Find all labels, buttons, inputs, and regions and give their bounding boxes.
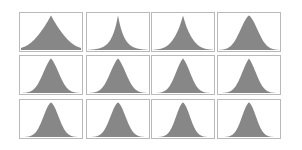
density-area <box>21 58 81 93</box>
density-panel-r1-c2 <box>86 12 150 52</box>
density-area <box>88 102 148 137</box>
density-panel-r1-c4 <box>217 12 281 52</box>
density-curve <box>218 56 280 94</box>
density-area <box>219 15 279 50</box>
density-panel-r3-c1 <box>19 99 83 139</box>
density-curve <box>218 100 280 138</box>
density-curve <box>218 13 280 51</box>
density-panel-r2-c2 <box>86 55 150 95</box>
density-panel-r3-c4 <box>217 99 281 139</box>
density-curve <box>152 56 214 94</box>
density-area <box>153 15 213 50</box>
density-panel-r3-c2 <box>86 99 150 139</box>
density-area <box>219 58 279 93</box>
density-curve <box>20 56 82 94</box>
density-area <box>153 58 213 93</box>
density-curve <box>87 56 149 94</box>
density-area <box>88 15 148 50</box>
density-panel-r2-c1 <box>19 55 83 95</box>
density-panel-r3-c3 <box>151 99 215 139</box>
density-curve <box>20 13 82 51</box>
density-area <box>153 102 213 137</box>
density-curve <box>20 100 82 138</box>
density-area <box>88 58 148 93</box>
density-curve <box>87 100 149 138</box>
density-panel-r1-c3 <box>151 12 215 52</box>
density-curve <box>87 13 149 51</box>
density-area <box>21 15 81 50</box>
density-panel-r1-c1 <box>19 12 83 52</box>
density-curve <box>152 13 214 51</box>
density-area <box>21 102 81 137</box>
density-area <box>219 102 279 137</box>
density-panel-r2-c3 <box>151 55 215 95</box>
density-small-multiples-grid <box>0 0 302 150</box>
density-panel-r2-c4 <box>217 55 281 95</box>
density-curve <box>152 100 214 138</box>
